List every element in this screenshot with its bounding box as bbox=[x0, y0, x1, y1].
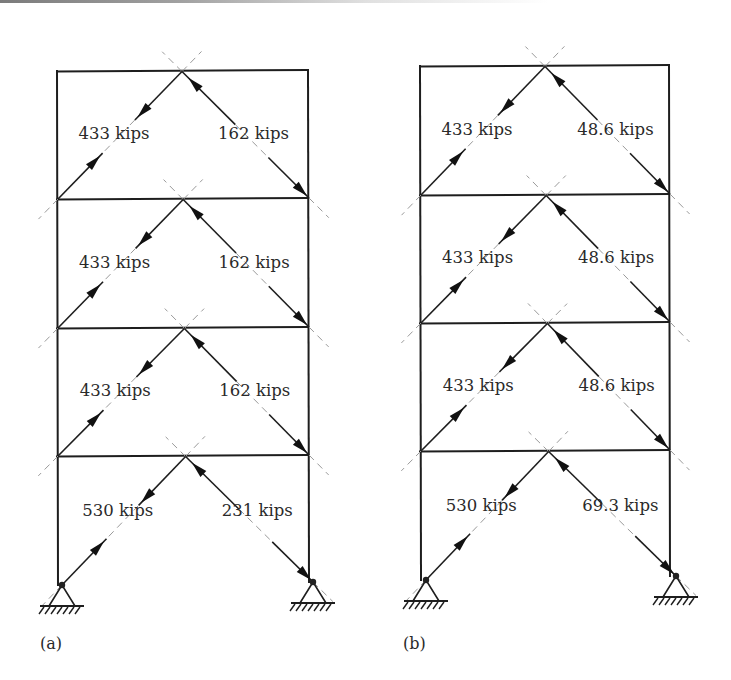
brace-extension-dashed bbox=[670, 450, 689, 470]
brace-extension-dashed bbox=[183, 179, 203, 199]
frame-b: 433 kips48.6 kips433 kips48.6 kips433 ki… bbox=[401, 46, 698, 653]
brace-extension-dashed bbox=[528, 303, 547, 323]
ground-hatch bbox=[427, 602, 432, 609]
ground-hatch bbox=[51, 607, 56, 614]
ground-hatch bbox=[689, 598, 694, 605]
ground-hatch bbox=[671, 598, 676, 605]
right-brace-force-label: 48.6 kips bbox=[578, 248, 654, 267]
ground-hatch bbox=[39, 607, 44, 614]
left-brace-force-label: 530 kips bbox=[446, 496, 517, 515]
ground-hatch bbox=[290, 604, 295, 611]
ground-hatch bbox=[57, 607, 62, 614]
left-brace-force-label: 433 kips bbox=[443, 376, 514, 395]
story-3: 433 kips48.6 kips bbox=[401, 303, 689, 470]
brace-extension-dashed bbox=[401, 323, 421, 343]
ground-hatch bbox=[45, 607, 50, 614]
ground-hatch bbox=[308, 604, 313, 611]
beam-level-4 bbox=[57, 455, 308, 457]
brace-extension-dashed bbox=[401, 451, 421, 471]
brace-extension-dashed bbox=[545, 46, 564, 66]
ground-hatch bbox=[653, 598, 658, 605]
ground-hatch bbox=[403, 602, 408, 609]
panel-label-b: (b) bbox=[403, 634, 426, 653]
brace-extension-dashed bbox=[402, 195, 421, 215]
brace-extension-dashed bbox=[38, 328, 58, 348]
brace-extension-dashed bbox=[309, 198, 329, 218]
left-pin-support-icon bbox=[39, 582, 84, 614]
story-4: 530 kips231 kips bbox=[43, 436, 333, 605]
right-brace-force-label: 162 kips bbox=[219, 253, 290, 272]
brace-extension-dashed bbox=[309, 327, 329, 347]
right-brace-force-label: 69.3 kips bbox=[582, 496, 658, 515]
left-brace-force-label: 433 kips bbox=[442, 248, 513, 267]
brace-extension-dashed bbox=[38, 456, 58, 476]
ground-hatch bbox=[320, 604, 325, 611]
brace-extension-dashed bbox=[527, 175, 547, 195]
ground-hatch bbox=[439, 602, 444, 609]
panel-label-a: (a) bbox=[40, 634, 62, 653]
brace-extension-dashed bbox=[547, 304, 567, 324]
right-pin-support-icon bbox=[290, 579, 335, 611]
brace-extension-dashed bbox=[670, 194, 690, 214]
pin-joint bbox=[423, 577, 429, 583]
pin-joint bbox=[59, 582, 65, 588]
ground-hatch bbox=[326, 604, 331, 611]
left-brace-force-label: 433 kips bbox=[78, 124, 149, 143]
braced-frame-diagram: 433 kips162 kips433 kips162 kips433 kips… bbox=[0, 0, 731, 680]
ground-hatch bbox=[302, 604, 307, 611]
ground-hatch bbox=[677, 598, 682, 605]
right-brace-force-label: 231 kips bbox=[222, 501, 293, 520]
story-3: 433 kips162 kips bbox=[38, 309, 328, 476]
brace-extension-dashed bbox=[549, 431, 568, 451]
left-brace-force-label: 433 kips bbox=[80, 381, 151, 400]
left-brace-force-label: 433 kips bbox=[441, 120, 512, 139]
brace-extension-dashed bbox=[184, 309, 204, 329]
ground-hatch bbox=[314, 604, 319, 611]
ground-hatch bbox=[69, 607, 74, 614]
brace-extension-dashed bbox=[525, 47, 545, 67]
ground-hatch bbox=[75, 607, 80, 614]
brace-extension-dashed bbox=[186, 436, 205, 456]
right-brace-force-label: 48.6 kips bbox=[579, 376, 655, 395]
pin-joint bbox=[673, 573, 679, 579]
right-pin-support-icon bbox=[653, 573, 698, 605]
beam-level-3 bbox=[420, 322, 669, 324]
pin-joint bbox=[310, 579, 316, 585]
brace-extension-dashed bbox=[546, 176, 566, 196]
ground-hatch bbox=[409, 602, 414, 609]
brace-extension-dashed bbox=[529, 432, 549, 452]
left-pin-support-icon bbox=[403, 577, 448, 609]
left-brace-force-label: 530 kips bbox=[82, 501, 153, 520]
brace-extension-dashed bbox=[162, 52, 182, 72]
ground-hatch bbox=[659, 598, 664, 605]
ground-hatch bbox=[433, 602, 438, 609]
brace-extension-dashed bbox=[309, 455, 329, 475]
brace-extension-dashed bbox=[164, 180, 184, 200]
beam-level-4 bbox=[420, 450, 669, 452]
story-4: 530 kips69.3 kips bbox=[407, 431, 696, 600]
story-1: 433 kips162 kips bbox=[38, 51, 328, 219]
brace-extension-dashed bbox=[166, 437, 186, 457]
right-brace-force-label: 162 kips bbox=[218, 124, 289, 143]
ground-hatch bbox=[63, 607, 68, 614]
brace-extension-dashed bbox=[165, 309, 185, 329]
story-2: 433 kips48.6 kips bbox=[401, 175, 689, 342]
right-brace-force-label: 162 kips bbox=[219, 381, 290, 400]
ground-hatch bbox=[683, 598, 688, 605]
story-2: 433 kips162 kips bbox=[38, 179, 328, 348]
right-brace-force-label: 48.6 kips bbox=[577, 120, 653, 139]
brace-extension-dashed bbox=[38, 199, 58, 219]
frame-a: 433 kips162 kips433 kips162 kips433 kips… bbox=[38, 51, 335, 653]
ground-hatch bbox=[421, 602, 426, 609]
ground-hatch bbox=[665, 598, 670, 605]
left-brace-force-label: 433 kips bbox=[79, 253, 150, 272]
brace-extension-dashed bbox=[182, 51, 202, 71]
ground-hatch bbox=[415, 602, 420, 609]
brace-extension-dashed bbox=[670, 322, 690, 342]
ground-hatch bbox=[296, 604, 301, 611]
story-1: 433 kips48.6 kips bbox=[402, 46, 690, 215]
